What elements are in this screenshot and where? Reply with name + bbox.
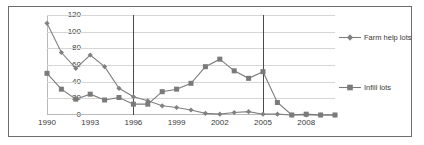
data-point-marker	[145, 102, 150, 107]
series-line-infill-lots	[47, 59, 335, 115]
data-point-marker	[232, 110, 237, 115]
series-line-farm-help-lots	[47, 23, 335, 115]
data-point-marker	[73, 97, 78, 102]
data-point-marker	[189, 81, 194, 86]
data-point-marker	[88, 92, 93, 97]
data-point-marker	[246, 109, 251, 114]
data-point-marker	[318, 113, 323, 118]
data-point-marker	[131, 94, 136, 99]
series-layer	[47, 15, 335, 115]
x-axis-tick-label: 1999	[157, 119, 197, 127]
chart-frame: 120100806040200 199019931996199920022005…	[8, 6, 412, 137]
diamond-marker-icon	[339, 33, 361, 42]
plot-area	[47, 15, 335, 115]
data-point-marker	[102, 98, 107, 103]
data-point-marker	[160, 89, 165, 94]
x-axis-tick-label: 2008	[286, 119, 326, 127]
data-point-marker	[160, 103, 165, 108]
data-point-marker	[289, 113, 294, 118]
data-point-marker	[59, 87, 64, 92]
data-point-marker	[188, 107, 193, 112]
data-point-marker	[131, 102, 136, 107]
data-point-marker	[333, 113, 338, 118]
legend-label-farm-help-lots: Farm help lots	[364, 34, 412, 42]
x-axis-tick-label: 2005	[243, 119, 283, 127]
data-point-marker	[304, 112, 309, 117]
chart-legend: Farm help lots Infill lots	[339, 7, 413, 138]
data-point-marker	[261, 69, 266, 74]
x-axis-tick-label: 1996	[113, 119, 153, 127]
data-point-marker	[174, 87, 179, 92]
data-point-marker	[174, 105, 179, 110]
data-point-marker	[275, 100, 280, 105]
legend-entry-infill-lots[interactable]: Infill lots	[339, 83, 391, 92]
x-axis-tick-label: 2002	[200, 119, 240, 127]
data-point-marker	[232, 68, 237, 73]
caption-remnant	[8, 0, 308, 4]
data-point-marker	[45, 71, 50, 76]
square-marker-icon	[339, 83, 361, 92]
data-point-marker	[246, 76, 251, 81]
data-point-marker	[117, 95, 122, 100]
legend-entry-farm-help-lots[interactable]: Farm help lots	[339, 33, 412, 42]
x-axis-tick-label: 1990	[27, 119, 67, 127]
x-axis-tick-label: 1993	[70, 119, 110, 127]
legend-label-infill-lots: Infill lots	[364, 84, 391, 92]
data-point-marker	[203, 64, 208, 69]
data-point-marker	[217, 57, 222, 62]
chart-screenshot: 120100806040200 199019931996199920022005…	[0, 0, 424, 145]
